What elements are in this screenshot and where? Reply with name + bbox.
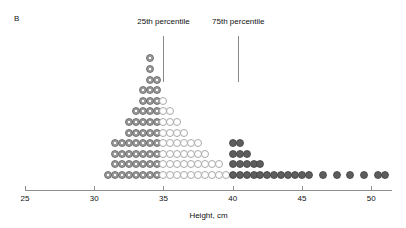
- data-dot: [173, 118, 181, 126]
- data-dot: [146, 54, 154, 62]
- data-dot: [166, 107, 174, 115]
- data-dot: [146, 65, 154, 73]
- data-dot: [153, 86, 161, 94]
- data-dot: [381, 171, 389, 179]
- data-dot: [256, 160, 264, 168]
- x-axis-tick-label: 35: [159, 194, 168, 203]
- data-dot: [243, 150, 251, 158]
- data-dot: [201, 150, 209, 158]
- data-dot: [236, 139, 244, 147]
- percentile-75-line: [238, 36, 239, 82]
- x-axis-tick-label: 25: [21, 194, 30, 203]
- figure-panel-b: B 25th percentile75th percentile25303540…: [0, 0, 406, 228]
- x-axis-line: [25, 190, 392, 191]
- percentile-25-line: [163, 36, 164, 82]
- x-axis-tick: [25, 186, 26, 191]
- data-dot: [305, 171, 313, 179]
- data-dot: [346, 171, 354, 179]
- x-axis-tick-label: 45: [298, 194, 307, 203]
- data-dot: [360, 171, 368, 179]
- data-dot: [194, 139, 202, 147]
- x-axis-tick: [163, 186, 164, 191]
- x-axis-tick-label: 40: [228, 194, 237, 203]
- x-axis-tick: [302, 186, 303, 191]
- x-axis-tick: [94, 186, 95, 191]
- data-dot: [319, 171, 327, 179]
- x-axis-tick: [371, 186, 372, 191]
- data-dot: [215, 160, 223, 168]
- data-dot: [153, 76, 161, 84]
- x-axis-tick-label: 50: [367, 194, 376, 203]
- percentile-75-label: 75th percentile: [212, 17, 264, 26]
- data-dot: [180, 129, 188, 137]
- dot-plot: 25th percentile75th percentile2530354045…: [0, 0, 406, 228]
- x-axis-tick-label: 30: [90, 194, 99, 203]
- x-axis-tick: [233, 186, 234, 191]
- data-dot: [159, 97, 167, 105]
- data-dot: [333, 171, 341, 179]
- percentile-25-label: 25th percentile: [137, 17, 189, 26]
- x-axis-title: Height, cm: [189, 211, 227, 220]
